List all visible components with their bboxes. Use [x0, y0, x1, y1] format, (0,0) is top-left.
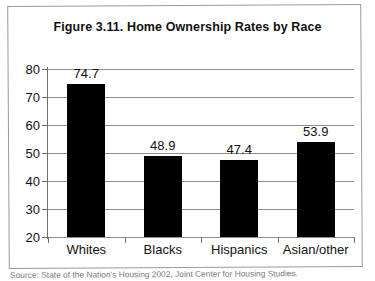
- y-axis-tick-label: 20: [6, 231, 40, 244]
- source-note: Source: State of the Nation's Housing 20…: [10, 269, 298, 280]
- bar-value-label: 48.9: [133, 139, 193, 152]
- x-axis-category-label: Asian/other: [271, 243, 361, 257]
- bar: [297, 142, 335, 237]
- y-axis-tick-label: 50: [6, 147, 40, 160]
- y-axis-tick-label: 40: [6, 175, 40, 188]
- y-axis-tick-label: 70: [6, 91, 40, 104]
- y-axis-tick-label: 30: [6, 203, 40, 216]
- bar-value-label: 53.9: [286, 125, 346, 138]
- y-axis-tick-label: 80: [6, 63, 40, 76]
- plot-area: [48, 69, 354, 237]
- bar-value-label: 74.7: [56, 67, 116, 80]
- bar-value-label: 47.4: [209, 143, 269, 156]
- chart-title: Figure 3.11. Home Ownership Rates by Rac…: [0, 20, 375, 34]
- y-axis-tick-label: 60: [6, 119, 40, 132]
- bar: [67, 84, 105, 237]
- bar: [144, 156, 182, 237]
- bar: [220, 160, 258, 237]
